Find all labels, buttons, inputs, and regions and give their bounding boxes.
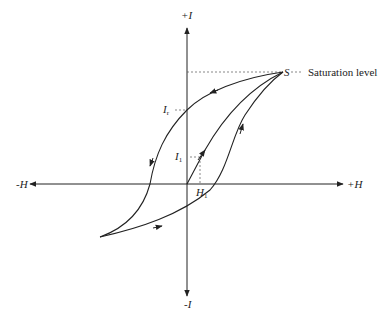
saturation-level-label: Saturation level	[308, 67, 377, 78]
initial-curve-arrow-icon	[198, 150, 205, 160]
ascending-branch-curve	[100, 72, 283, 237]
i1-label: I1	[175, 151, 182, 164]
descending-top-arrow-icon	[210, 90, 218, 93]
h1-label-sub: 1	[204, 192, 208, 200]
x-negative-label: -H	[16, 179, 28, 190]
hysteresis-diagram	[0, 0, 390, 321]
saturation-point-label: S	[284, 67, 290, 78]
y-negative-label: -I	[184, 299, 191, 310]
y-positive-label: +I	[181, 10, 192, 21]
remanence-label: Ir	[163, 104, 169, 117]
initial-magnetization-curve	[187, 72, 283, 184]
i1-label-sub: 1	[179, 156, 183, 164]
h1-label: H1	[196, 187, 207, 200]
ascending-right-arrow-icon	[240, 124, 243, 134]
descending-left-arrow-icon	[150, 158, 153, 166]
descending-branch-curve	[100, 72, 283, 237]
h1-label-main: H	[196, 186, 204, 198]
x-positive-label: +H	[347, 179, 362, 190]
ascending-bottom-arrow-icon	[153, 226, 162, 228]
remanence-label-sub: r	[167, 109, 169, 117]
